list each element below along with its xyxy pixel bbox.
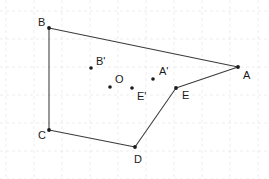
vertex-point-b <box>47 26 51 30</box>
geometry-figure: BAEDCB'OE'A' <box>0 0 269 179</box>
vertex-point-d <box>133 145 137 149</box>
interior-label-e-prime: E' <box>137 90 146 102</box>
vertex-label-b: B <box>38 16 45 28</box>
polygon-vertices <box>47 26 240 149</box>
vertex-label-d: D <box>134 153 142 165</box>
polygon-edges <box>49 28 238 147</box>
interior-point-e-prime <box>130 86 134 90</box>
interior-label-o: O <box>115 73 124 85</box>
edge-A-E <box>176 67 238 88</box>
vertex-point-a <box>236 65 240 69</box>
vertex-label-c: C <box>38 129 46 141</box>
vertex-label-e: E <box>182 89 189 101</box>
point-labels: BAEDCB'OE'A' <box>38 16 251 165</box>
vertex-point-e <box>174 86 178 90</box>
vertex-point-c <box>47 128 51 132</box>
interior-point-a-prime <box>151 77 155 81</box>
edge-B-A <box>49 28 238 67</box>
figure-canvas: BAEDCB'OE'A' <box>0 0 269 179</box>
interior-label-a-prime: A' <box>159 65 168 77</box>
interior-point-o <box>108 85 112 89</box>
vertex-label-a: A <box>243 69 251 81</box>
interior-point-b-prime <box>89 66 93 70</box>
interior-label-b-prime: B' <box>96 55 105 67</box>
